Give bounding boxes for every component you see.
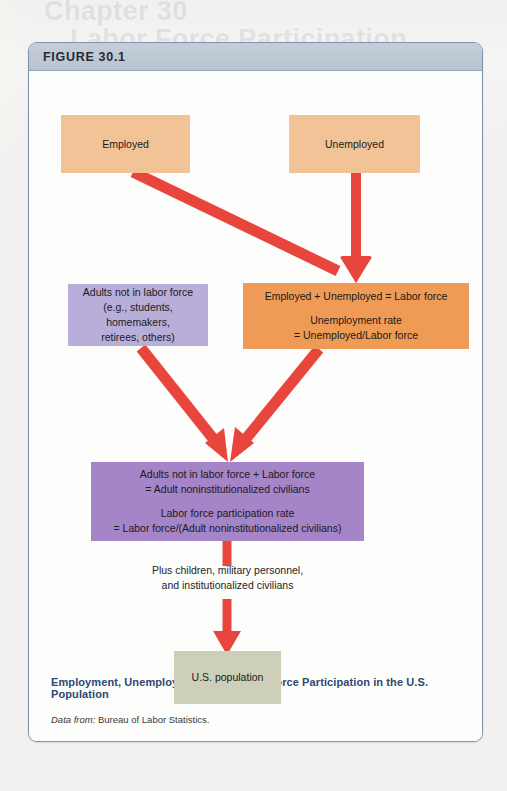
node-text-line: Adults not in labor force bbox=[74, 285, 202, 300]
arrow-adult-civilians-to-us-population bbox=[213, 541, 241, 655]
connector-note-plus-children: Plus children, military personnel, and i… bbox=[91, 563, 364, 593]
connector-note-line: and institutionalized civilians bbox=[91, 578, 364, 593]
node-text-spacer bbox=[249, 304, 463, 313]
flowchart-canvas: Employed Unemployed Adults not in labor … bbox=[29, 71, 482, 667]
node-employed-label: Employed bbox=[67, 137, 184, 152]
node-unemployed-label: Unemployed bbox=[295, 137, 414, 152]
node-adult-noninstitutionalized-civilians-label: Adults not in labor force + Labor force … bbox=[97, 467, 358, 536]
node-employed: Employed bbox=[61, 115, 190, 173]
arrowhead-into-labor-force bbox=[340, 257, 372, 283]
node-text-line: Employed + Unemployed = Labor force bbox=[249, 289, 463, 304]
background-ghost-title-line1: Chapter 30 bbox=[44, 0, 188, 27]
node-text-line: = Adult noninstitutionalized civilians bbox=[97, 482, 358, 497]
node-labor-force-label: Employed + Unemployed = Labor force Unem… bbox=[249, 289, 463, 343]
node-text-line: retirees, others) bbox=[74, 330, 202, 345]
node-adults-not-in-labor-force-label: Adults not in labor force (e.g., student… bbox=[74, 285, 202, 345]
node-us-population: U.S. population bbox=[174, 651, 281, 704]
arrow-labor-force-to-adult-civilians bbox=[230, 349, 319, 462]
node-adults-not-in-labor-force: Adults not in labor force (e.g., student… bbox=[68, 284, 208, 346]
node-text-line: = Unemployed/Labor force bbox=[249, 328, 463, 343]
node-adult-noninstitutionalized-civilians: Adults not in labor force + Labor force … bbox=[91, 462, 364, 541]
arrow-not-in-labor-force-to-adult-civilians bbox=[141, 348, 228, 462]
node-text-line: Unemployment rate bbox=[249, 313, 463, 328]
node-text-spacer bbox=[97, 497, 358, 506]
figure-source-lead: Data from: bbox=[51, 714, 95, 725]
connector-note-line: Plus children, military personnel, bbox=[91, 563, 364, 578]
figure-header-bar: FIGURE 30.1 bbox=[29, 43, 482, 71]
node-unemployed: Unemployed bbox=[289, 115, 420, 173]
figure-source-text: Bureau of Labor Statistics. bbox=[95, 714, 209, 725]
node-text-line: = Labor force/(Adult noninstitutionalize… bbox=[97, 521, 358, 536]
arrow-unemployed-to-labor-force bbox=[341, 172, 371, 283]
node-labor-force: Employed + Unemployed = Labor force Unem… bbox=[243, 283, 469, 349]
node-text-line: Labor force participation rate bbox=[97, 506, 358, 521]
arrow-employed-to-labor-force bbox=[133, 172, 338, 271]
figure-number-label: FIGURE 30.1 bbox=[43, 50, 126, 64]
node-text-line: Adults not in labor force + Labor force bbox=[97, 467, 358, 482]
node-us-population-label: U.S. population bbox=[180, 670, 275, 685]
figure-source: Data from: Bureau of Labor Statistics. bbox=[51, 714, 464, 725]
node-text-line: (e.g., students, homemakers, bbox=[74, 300, 202, 330]
figure-frame: FIGURE 30.1 bbox=[28, 42, 483, 742]
